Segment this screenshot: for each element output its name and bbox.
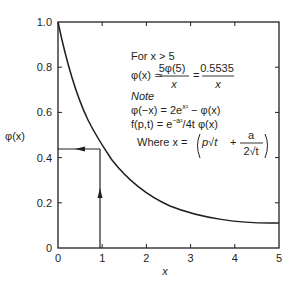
y-tick-1.0: 1.0 <box>37 16 52 28</box>
where-label: Where x = <box>137 136 187 148</box>
where-num: a <box>248 129 255 141</box>
left-paren <box>198 134 201 158</box>
approx-den1: x <box>170 78 177 90</box>
note-line-1: φ(−x) = 2ex² − φ(x) <box>131 103 221 116</box>
where-p-sqrt-t: p√t <box>201 136 218 148</box>
y-axis-label: φ(x) <box>5 130 25 142</box>
x-axis-label: x <box>161 265 168 277</box>
x-tick-2: 2 <box>143 252 149 264</box>
y-tick-0.4: 0.4 <box>37 152 52 164</box>
y-tick-labels: 0 0.2 0.4 0.6 0.8 1.0 <box>37 16 52 254</box>
approx-num1: 5φ(5) <box>159 62 186 74</box>
approx-eq: = <box>193 69 199 81</box>
x-tick-5: 5 <box>276 252 282 264</box>
y-tick-0.8: 0.8 <box>37 61 52 73</box>
x-tick-0: 0 <box>55 252 61 264</box>
y-tick-0: 0 <box>46 242 52 254</box>
y-tick-0.6: 0.6 <box>37 106 52 118</box>
where-plus: + <box>230 136 236 148</box>
x-tick-labels: 0 1 2 3 4 5 <box>55 252 282 264</box>
note-heading: Note <box>131 90 154 102</box>
y-ticks <box>58 67 279 203</box>
for-condition: For x > 5 <box>131 50 175 62</box>
chart-canvas: 0 0.2 0.4 0.6 0.8 1.0 0 1 2 3 4 5 φ(x) x… <box>0 0 298 285</box>
x-tick-3: 3 <box>188 252 194 264</box>
x-tick-1: 1 <box>99 252 105 264</box>
annotation-block: For x > 5 φ(x) ≃ 5φ(5) x = 0.5535 x Note… <box>131 50 268 158</box>
note-line-2: f(p,t) = e−a²/4t φ(x) <box>131 117 218 130</box>
up-arrow-icon <box>98 188 103 198</box>
approx-den2: x <box>214 78 221 90</box>
approx-num2: 0.5535 <box>200 62 234 74</box>
right-paren <box>265 134 268 158</box>
left-arrow-icon <box>75 147 85 152</box>
y-tick-0.2: 0.2 <box>37 197 52 209</box>
x-tick-4: 4 <box>232 252 238 264</box>
where-den: 2√t <box>243 145 258 157</box>
